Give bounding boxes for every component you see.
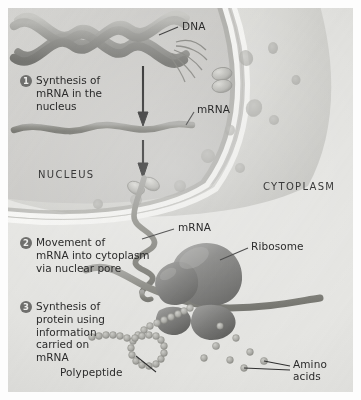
polypeptide-label: Polypeptide bbox=[60, 366, 123, 378]
protein-synthesis-figure: DNA mRNA mRNA Ribosome Polypeptide Amino… bbox=[0, 0, 361, 400]
step-2: 2 Movement of mRNA into cytoplasm via nu… bbox=[20, 236, 170, 274]
step-3: 3 Synthesis of protein using information… bbox=[20, 300, 130, 364]
step-1-number: 1 bbox=[20, 75, 32, 87]
step-3-number: 3 bbox=[20, 301, 32, 313]
ribosome-label: Ribosome bbox=[251, 240, 304, 252]
dna-label: DNA bbox=[182, 20, 205, 32]
step-1-text: Synthesis of mRNA in the nucleus bbox=[36, 74, 102, 112]
nucleus-label: NUCLEUS bbox=[38, 169, 94, 181]
step-1: 1 Synthesis of mRNA in the nucleus bbox=[20, 74, 140, 112]
step-2-text: Movement of mRNA into cytoplasm via nucl… bbox=[36, 236, 150, 274]
mrna-nucleus-label: mRNA bbox=[197, 103, 230, 115]
step-2-number: 2 bbox=[20, 237, 32, 249]
step-3-text: Synthesis of protein using information c… bbox=[36, 300, 105, 364]
cytoplasm-label: CYTOPLASM bbox=[263, 181, 335, 193]
amino-acids-label: Amino acids bbox=[293, 358, 327, 383]
mrna-cytoplasm-label: mRNA bbox=[178, 221, 211, 233]
diagram-plate: DNA mRNA mRNA Ribosome Polypeptide Amino… bbox=[8, 8, 353, 392]
